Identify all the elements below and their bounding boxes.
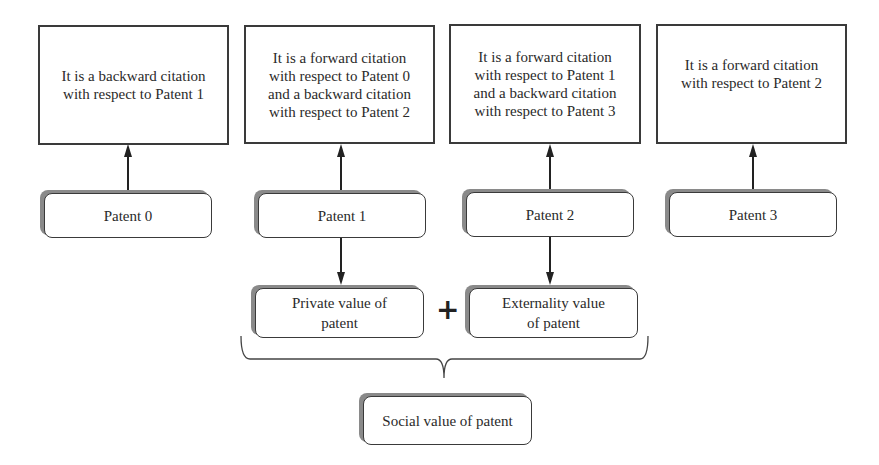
externality-value-node: Externality value of patent <box>469 288 638 338</box>
patent-label: Patent 2 <box>526 205 575 225</box>
patent-node-1: Patent 1 <box>258 193 426 238</box>
private-value-node: Private value of patent <box>255 288 424 338</box>
citation-text: It is a forward citation with respect to… <box>474 48 617 120</box>
citation-text: It is a forward citation with respect to… <box>681 56 822 92</box>
patent-node-2: Patent 2 <box>466 192 634 237</box>
citation-box-patent-0: It is a backward citation with respect t… <box>38 25 229 145</box>
citation-box-patent-2: It is a forward citation with respect to… <box>449 24 641 144</box>
citation-text: It is a forward citation with respect to… <box>268 49 411 121</box>
patent-node-3: Patent 3 <box>669 192 837 237</box>
patent-label: Patent 0 <box>104 206 153 226</box>
patent-node-0: Patent 0 <box>44 193 212 238</box>
patent-label: Patent 1 <box>318 206 367 226</box>
plus-operator: + <box>436 293 459 326</box>
social-value-node: Social value of patent <box>363 396 532 445</box>
patent-label: Patent 3 <box>729 205 778 225</box>
citation-text: It is a backward citation with respect t… <box>61 67 205 103</box>
curly-brace <box>241 336 648 378</box>
citation-box-patent-3: It is a forward citation with respect to… <box>656 24 847 144</box>
citation-box-patent-1: It is a forward citation with respect to… <box>244 25 435 144</box>
